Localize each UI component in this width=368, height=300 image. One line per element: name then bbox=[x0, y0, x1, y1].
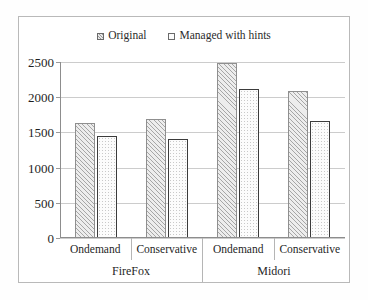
dots-swatch-icon bbox=[168, 33, 175, 40]
y-tick-label-500: 500 bbox=[0, 196, 54, 209]
category-cell-0: Ondemand bbox=[60, 238, 132, 260]
legend-entry-original: Original bbox=[97, 30, 146, 42]
category-row-browser: FireFoxMidori bbox=[60, 260, 345, 282]
legend-label-original: Original bbox=[108, 30, 146, 42]
y-tick-label-1500: 1500 bbox=[0, 126, 54, 139]
y-tick-label-2000: 2000 bbox=[0, 91, 54, 104]
category-cell-1: Conservative bbox=[132, 238, 204, 260]
category-cell-3: Conservative bbox=[275, 238, 346, 260]
legend-entry-managed: Managed with hints bbox=[168, 30, 270, 42]
category-cell-2: Ondemand bbox=[203, 238, 275, 260]
bar-chart-figure: Original Managed with hints 050010001500… bbox=[0, 0, 368, 300]
chart-legend: Original Managed with hints bbox=[18, 26, 350, 46]
hatch-swatch-icon bbox=[97, 33, 104, 40]
category-row-governor: OndemandConservativeOndemandConservative bbox=[60, 238, 345, 260]
group-cell-1: Midori bbox=[203, 260, 345, 282]
y-tick-label-2500: 2500 bbox=[0, 56, 54, 69]
group-cell-0: FireFox bbox=[60, 260, 203, 282]
plot-area bbox=[60, 62, 345, 238]
category-label-table: OndemandConservativeOndemandConservative… bbox=[60, 238, 345, 282]
legend-label-managed: Managed with hints bbox=[179, 30, 270, 42]
plot-axes bbox=[60, 62, 345, 238]
y-tick-label-1000: 1000 bbox=[0, 161, 54, 174]
y-tick-label-0: 0 bbox=[0, 232, 54, 245]
y-axis-tick-labels: 05001000150020002500 bbox=[0, 62, 54, 238]
